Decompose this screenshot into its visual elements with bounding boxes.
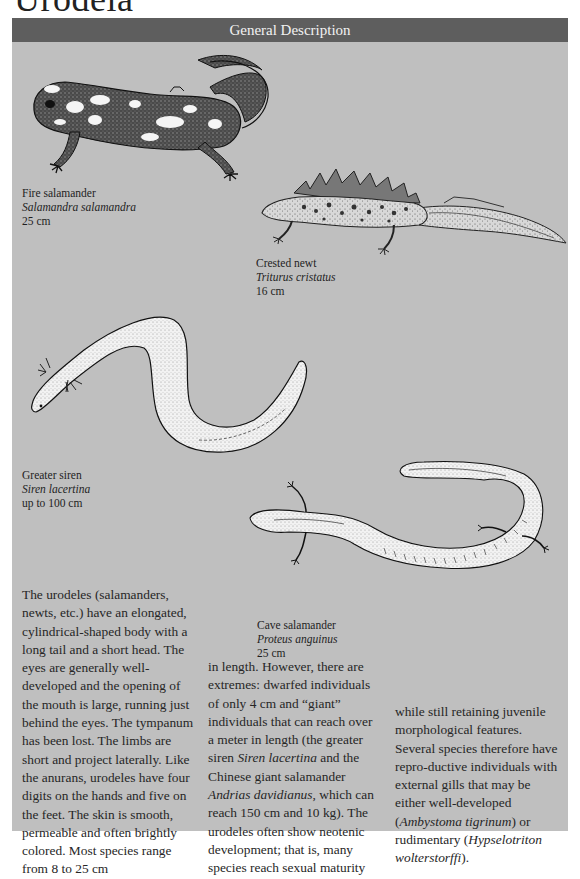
species-name: Siren lacertina [237, 750, 316, 765]
body-column-2: in length. However, there are extremes: … [208, 658, 380, 878]
caption-cave-salamander: Cave salamander Proteus anguinus 25 cm [257, 618, 337, 660]
body-column-1: The urodeles (salamanders, newts, etc.) … [22, 586, 194, 879]
cave-salamander-illustration [244, 456, 570, 586]
latin-name: Proteus anguinus [257, 632, 337, 646]
body-text: while still retaining juvenile morpholog… [395, 704, 557, 829]
common-name: Crested newt [256, 256, 336, 270]
fire-salamander-illustration [20, 32, 280, 182]
page-title: Urodela [14, 0, 133, 20]
size-label: up to 100 cm [22, 496, 90, 510]
caption-fire-salamander: Fire salamander Salamandra salamandra 25… [22, 186, 136, 228]
species-name: Andrias davidianus [208, 787, 313, 802]
latin-name: Salamandra salamandra [22, 200, 136, 214]
latin-name: Siren lacertina [22, 482, 90, 496]
common-name: Greater siren [22, 468, 90, 482]
latin-name: Triturus cristatus [256, 270, 336, 284]
size-label: 25 cm [22, 214, 136, 228]
caption-greater-siren: Greater siren Siren lacertina up to 100 … [22, 468, 90, 510]
common-name: Cave salamander [257, 618, 337, 632]
size-label: 16 cm [256, 284, 336, 298]
crested-newt-illustration [254, 163, 570, 258]
body-text: ). [461, 850, 469, 865]
common-name: Fire salamander [22, 186, 136, 200]
species-name: Ambystoma tigrinum [399, 814, 511, 829]
body-column-3: while still retaining juvenile morpholog… [395, 703, 560, 868]
general-description-panel: General Description [12, 18, 568, 831]
caption-crested-newt: Crested newt Triturus cristatus 16 cm [256, 256, 336, 298]
greater-siren-illustration [24, 300, 324, 460]
